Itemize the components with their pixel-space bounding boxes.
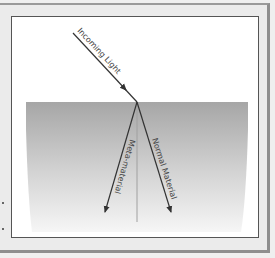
refraction-diagram: Incoming Light Meta-material Normal Mate… [0,0,275,258]
incoming-light-label: Incoming Light [76,26,123,76]
incoming-light-arrow [73,33,126,90]
